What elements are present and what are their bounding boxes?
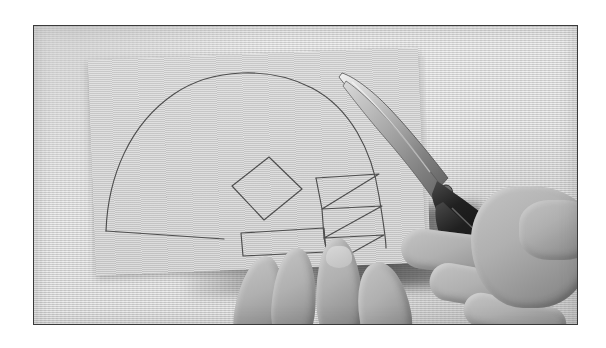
photo-frame — [33, 25, 578, 325]
left-hand-finger-4 — [350, 258, 417, 325]
left-hand-thumbnail — [326, 246, 352, 268]
page-root — [0, 0, 606, 348]
left-hand — [234, 244, 414, 325]
left-hand-finger-2 — [269, 247, 320, 325]
scissor-blade-lower — [343, 81, 450, 206]
right-hand — [419, 196, 578, 325]
right-hand-knuckle — [519, 200, 578, 260]
